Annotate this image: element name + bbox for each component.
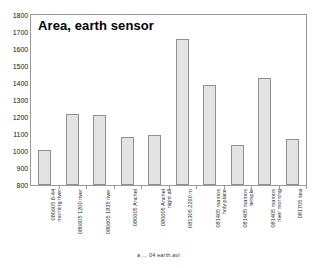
x-axis-label-line: 080605 Anchel: [132, 189, 138, 247]
y-axis-tick-label: 1500: [2, 63, 28, 70]
bar[interactable]: [148, 135, 161, 185]
x-axis-label-line: 081405 mamos: [215, 189, 221, 247]
x-axis-label-line: 080605 Anchel: [160, 189, 166, 247]
bar[interactable]: [176, 39, 189, 185]
x-axis-tick-label: 081405 mamostemple: [242, 189, 256, 247]
bars-container: [31, 15, 306, 185]
x-axis-tick-label: 081305 2260 m: [187, 189, 201, 247]
x-axis-tick-label: 080605 Anchel: [132, 189, 146, 247]
y-axis-tick-label: 800: [2, 182, 28, 189]
x-axis-tick-label: 081705 sea: [297, 189, 311, 247]
x-axis-tick-label: 080605 Anchelnight all: [160, 189, 174, 247]
y-axis-tick-label: 1300: [2, 97, 28, 104]
x-axis-label-line: holy place: [221, 189, 227, 247]
x-axis-label-line: 080605 1835 river: [105, 189, 111, 247]
y-axis-tick-label: 1400: [2, 80, 28, 87]
bar-slot: [93, 15, 106, 185]
y-axis-tick-label: 1000: [2, 148, 28, 155]
bar[interactable]: [203, 85, 216, 185]
bar-slot: [121, 15, 134, 185]
bar-slot: [66, 15, 79, 185]
bar-chart: 1800170016001500140013001200110010009008…: [0, 0, 317, 268]
y-axis-tick-label: 1800: [2, 12, 28, 19]
bar-slot: [231, 15, 244, 185]
bar-slot: [203, 15, 216, 185]
bar[interactable]: [231, 145, 244, 185]
x-axis-label-line: 081405 mamos: [270, 189, 276, 247]
x-axis-label-line: morning river: [56, 189, 62, 247]
y-axis-tick-label: 1100: [2, 131, 28, 138]
y-axis-tick-label: 1700: [2, 29, 28, 36]
x-axis-label-line: temple: [249, 189, 255, 247]
bar[interactable]: [258, 78, 271, 185]
chart-page: 1800170016001500140013001200110010009008…: [0, 0, 317, 268]
y-axis-tick-label: 1200: [2, 114, 28, 121]
bar[interactable]: [286, 139, 299, 185]
x-axis-label-line: 081305 2260 m: [187, 189, 193, 247]
footer-caption: a ... 04 earth.avi: [0, 252, 317, 259]
x-axis-tick-label: 081405 mamosriver morning: [270, 189, 284, 247]
x-axis-label-line: river morning: [276, 189, 282, 247]
x-axis: 080605 8-44morning river080605 1200 rive…: [31, 189, 306, 247]
bar-slot: [38, 15, 51, 185]
bar[interactable]: [66, 114, 79, 185]
y-axis-tick-label: 1600: [2, 46, 28, 53]
x-axis-label-line: 080605 1200 river: [77, 189, 83, 247]
x-axis-tick-label: 080605 8-44morning river: [50, 189, 64, 247]
x-axis-label-line: 081705 sea: [297, 189, 303, 247]
x-axis-label-line: night all: [166, 189, 172, 247]
x-axis-label-line: 080605 8-44: [50, 189, 56, 247]
bar[interactable]: [121, 137, 134, 185]
y-axis-tick-label: 900: [2, 165, 28, 172]
bar-slot: [148, 15, 161, 185]
bar-slot: [176, 15, 189, 185]
bar-slot: [258, 15, 271, 185]
x-axis-tick-label: 081405 mamosholy place: [215, 189, 229, 247]
x-axis-tick-label: 080605 1200 river: [77, 189, 91, 247]
bar[interactable]: [93, 115, 106, 185]
y-axis: 1800170016001500140013001200110010009008…: [2, 14, 28, 186]
bar[interactable]: [38, 150, 51, 185]
bar-slot: [286, 15, 299, 185]
x-axis-tick-label: 080605 1835 river: [105, 189, 119, 247]
